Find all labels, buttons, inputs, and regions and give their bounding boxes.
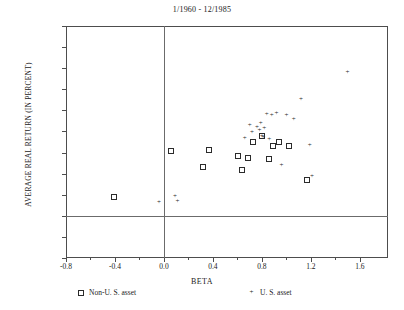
data-point-us [261,125,268,132]
chart-legend: Non-U. S. asset + U. S. asset [0,288,404,302]
data-point-us [290,116,297,123]
data-point-non-us [250,139,256,145]
x-axis-label: BETA [0,277,404,286]
data-point-non-us [270,143,276,149]
legend-label-us: U. S. asset [260,288,292,297]
plus-marker-icon: + [248,289,255,296]
x-tick-label: 1.2 [291,263,331,271]
data-point-us [309,173,316,180]
x-minor-tick [188,257,189,260]
x-minor-tick [90,257,91,260]
x-tick-label: 0.4 [193,263,233,271]
data-point-us [306,142,313,149]
y-tick [62,174,66,175]
data-point-us [278,162,285,169]
y-tick [62,131,66,132]
data-point-us [344,69,351,76]
x-minor-tick [139,257,140,260]
y-tick [62,237,66,238]
plot-area: 1.81.61.41.21.00.80.60.40.20.0-0.2-0.4-0… [66,26,388,258]
data-point-non-us [266,156,272,162]
data-point-us [241,135,248,142]
data-point-non-us [206,147,212,153]
y-tick [62,68,66,69]
data-point-non-us [286,143,292,149]
zero-line-horizontal [66,216,388,217]
axis-spine-left [66,26,67,258]
x-tick-label: -0.8 [46,263,86,271]
y-tick [62,26,66,27]
y-tick [62,47,66,48]
square-marker-icon [78,290,84,296]
chart-figure: 1/1960 - 12/1985 AVERAGE REAL RETURN (IN… [0,0,404,310]
legend-label-non-us: Non-U. S. asset [89,288,136,297]
data-point-non-us [239,167,245,173]
data-point-non-us [235,153,241,159]
data-point-non-us [276,139,282,145]
x-tick-label: -0.4 [95,263,135,271]
x-tick-label: 0.8 [242,263,282,271]
chart-title: 1/1960 - 12/1985 [0,5,404,14]
data-point-us [283,112,290,119]
y-axis-label: AVERAGE REAL RETURN (IN PERCENT) [24,45,33,225]
data-point-non-us [245,155,251,161]
data-point-us [298,96,305,103]
x-minor-tick [286,257,287,260]
data-point-us [174,198,181,205]
axis-spine-right [387,26,388,258]
data-point-non-us [168,148,174,154]
axis-spine-top [66,26,388,27]
x-tick-label: 1.6 [340,263,380,271]
data-point-non-us [200,164,206,170]
y-tick [62,110,66,111]
data-point-non-us [111,194,117,200]
legend-item-non-us: Non-U. S. asset [78,288,136,297]
legend-item-us: + U. S. asset [248,288,292,297]
data-point-us [266,136,273,143]
zero-line-vertical [164,26,165,258]
y-tick [62,89,66,90]
x-tick-label: 0.0 [144,263,184,271]
x-minor-tick [335,257,336,260]
data-point-us [156,199,163,206]
y-tick [62,153,66,154]
data-point-us [273,110,280,117]
y-tick [62,195,66,196]
x-minor-tick [237,257,238,260]
